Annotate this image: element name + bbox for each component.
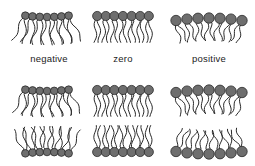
label-positive: positive	[179, 53, 239, 64]
bilayer-positive	[171, 85, 247, 159]
lipid-curvature-diagram	[0, 0, 255, 166]
bilayer-negative	[12, 86, 80, 157]
monolayer-zero	[93, 11, 154, 42]
label-zero: zero	[93, 53, 153, 64]
monolayer-positive	[171, 13, 247, 44]
bilayer-zero	[93, 85, 154, 156]
monolayer-negative	[11, 12, 80, 45]
label-negative: negative	[19, 53, 79, 64]
